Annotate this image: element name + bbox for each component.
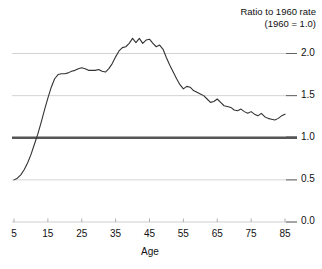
y-axis-label-2.0: 2.0 xyxy=(301,47,322,58)
x-axis-label-25: 25 xyxy=(70,228,94,239)
x-axis-label-5: 5 xyxy=(2,228,26,239)
data-series-group xyxy=(14,38,285,180)
x-axis-label-35: 35 xyxy=(104,228,128,239)
x-axis-label-65: 65 xyxy=(205,228,229,239)
x-axis-label-85: 85 xyxy=(273,228,297,239)
y-axis-label-1.0: 1.0 xyxy=(301,131,322,142)
chart-container: Ratio to 1960 rate (1960 = 1.0) 0.00.51.… xyxy=(0,0,322,269)
x-axis-title: Age xyxy=(0,246,300,257)
x-axis-label-55: 55 xyxy=(171,228,195,239)
y-tick-marks xyxy=(286,54,297,223)
x-axis-label-15: 15 xyxy=(36,228,60,239)
y-axis-label-0.5: 0.5 xyxy=(301,173,322,184)
x-axis-label-75: 75 xyxy=(239,228,263,239)
y-axis-label-0.0: 0.0 xyxy=(301,215,322,226)
series-line xyxy=(14,38,285,180)
y-axis-label-1.5: 1.5 xyxy=(301,89,322,100)
x-axis-label-45: 45 xyxy=(138,228,162,239)
